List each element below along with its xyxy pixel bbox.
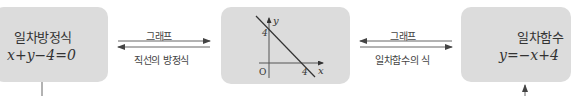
x-axis-label: x: [318, 65, 324, 76]
y-axis-label: y: [272, 15, 279, 26]
origin-label: O: [259, 67, 266, 77]
y-intercept-label: 4: [261, 28, 268, 38]
x-intercept-label: 4: [301, 67, 308, 77]
left-arrow-pair: [118, 41, 210, 47]
coordinate-graph: y 4 O 4 x: [256, 15, 324, 78]
right-arrow-pair: [360, 41, 452, 47]
